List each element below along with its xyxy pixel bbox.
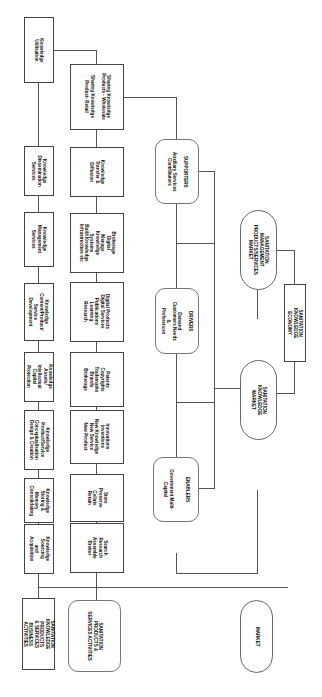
connector-line (294, 361, 295, 394)
connector-line (123, 97, 177, 98)
connector-line (257, 490, 258, 574)
patents-box: Patents Copyrights Trademarks Brands Bro… (70, 352, 124, 407)
store-preserve-box: Store Preserve Collate Retain (70, 474, 124, 522)
sanitation-knowledge-business-box: SANITATION KNOWLEDGE PRODUCTS & SERVICES… (22, 598, 55, 670)
connector-line (53, 50, 97, 51)
knowledge-assets-box: Knowledge Assets/ Intellectual Capital P… (24, 352, 54, 402)
market-pill: MARKET (240, 600, 273, 673)
knowledge-transfer-box: Knowledge Transfer & Diffusion (70, 147, 124, 197)
digital-products-box: Digital Products Digital Services Public… (70, 282, 124, 342)
sanitation-products-activities-box: SANITATION PRODUCTS & SERVICES ACTIVITIE… (68, 600, 121, 672)
sanitation-management-market-pill: SANITATION MANAGEMENT PRODUCTS/SERVICES … (240, 210, 277, 290)
connector-line (176, 354, 177, 457)
sanitation-knowledge-market-pill: SANITATION KNOWLEDGE MARKET (240, 360, 277, 440)
knowledge-storing-box: Knowledge Storing & Memory Consolidating (24, 478, 54, 523)
innovations-box: Innovations Inventions New Knowledge New… (70, 410, 124, 464)
connector-line (176, 97, 177, 139)
connector-line (275, 393, 295, 394)
connector-line (294, 250, 295, 285)
drivers-box: DRIVERS Demand Customers Needs & Prefere… (155, 288, 199, 354)
connector-line (257, 289, 258, 319)
knowledge-dissemination-box: Knowledge Dissemination Services (24, 146, 54, 196)
connector-line (198, 488, 215, 489)
connector-line (176, 243, 214, 244)
sanitation-knowledge-economy-box: SANITATION KNOWLEDGE ECONOMY (284, 284, 306, 362)
knowledge-utilisation-box: Knowledge Utilisation (24, 17, 54, 83)
knowledge-management-box: Knowledge Management Services (24, 212, 54, 267)
search-research-box: Search Research Assemble Broker (70, 523, 124, 573)
connector-line (176, 553, 177, 573)
connector-line (176, 573, 257, 574)
enablers-box: ENABLERS Government Multi-Capital (153, 457, 199, 522)
supporters-box: SUPPORTERS Auxiliary Services Contributo… (155, 139, 199, 204)
brokerage-digital-box: Brokerage Digital Manage Knowledge Syste… (70, 213, 124, 273)
connector-line (176, 203, 177, 288)
connector-line (275, 250, 295, 251)
knowledge-content-development-box: Knowledge Content/Product/ Service Devel… (24, 283, 54, 341)
connector-line (38, 587, 288, 588)
connector-line (198, 171, 215, 172)
knowledge-conceptualisation-box: Knowledge Product/Service Conceptualisat… (24, 410, 54, 470)
knowledge-sourcing-box: Knowledge Sourcing and Acquisition (24, 524, 54, 574)
connector-line (96, 50, 97, 64)
connector-line (176, 402, 214, 403)
sharing-knowledge-box: Sharing Knowledge Products - Wholesale S… (70, 64, 124, 130)
connector-line (214, 171, 215, 489)
